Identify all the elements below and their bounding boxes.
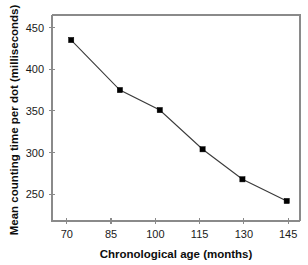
y-axis-title: Mean counting time per dot (milliseconds… [8, 5, 20, 236]
line-chart: 7085100115130145 250300350400450 71.5 mo… [0, 0, 308, 265]
x-tick-label: 115 [191, 228, 209, 240]
data-point-marker: 88 months, 375 ms [117, 87, 122, 92]
data-point-marker: 71.5 months, 435 ms [69, 37, 74, 42]
y-tick-label: 450 [26, 22, 44, 34]
figure-container: 7085100115130145 250300350400450 71.5 mo… [0, 0, 308, 265]
data-point-marker: 116 months, 304 ms [200, 147, 205, 152]
x-tick-label: 85 [105, 228, 117, 240]
y-tick-label: 300 [26, 147, 44, 159]
y-tick-label: 250 [26, 188, 44, 200]
y-tick-label: 400 [26, 63, 44, 75]
y-tick-label: 350 [26, 105, 44, 117]
x-axis-title: Chronological age (months) [100, 248, 253, 260]
x-tick-label: 100 [146, 228, 164, 240]
chart-background [0, 0, 308, 265]
data-point-marker: 129.5 months, 268 ms [240, 177, 245, 182]
x-tick-label: 70 [61, 228, 73, 240]
data-point-marker: 144.5 months, 242 ms [284, 198, 289, 203]
data-point-marker: 101.5 months, 351 ms [157, 107, 162, 112]
x-tick-label: 130 [235, 228, 253, 240]
x-tick-label: 145 [279, 228, 297, 240]
